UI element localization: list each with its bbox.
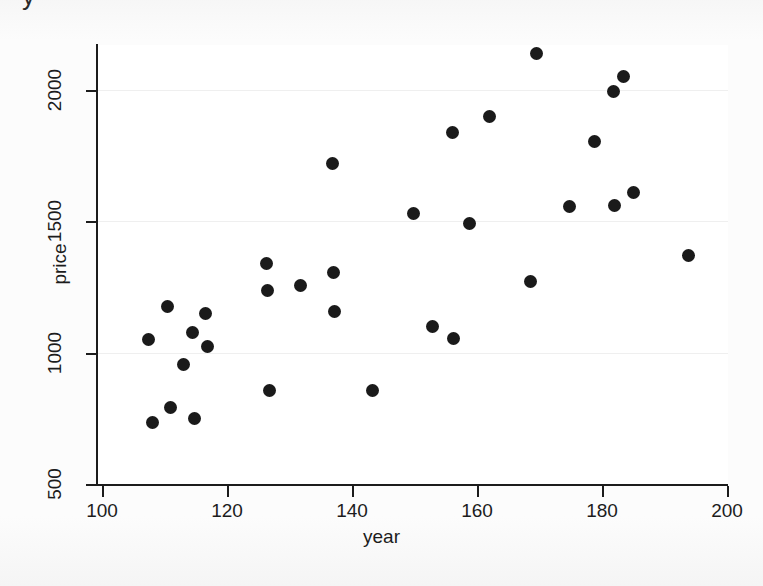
data-point — [607, 85, 620, 98]
x-axis-title: year — [0, 526, 763, 548]
x-tick-200 — [727, 486, 729, 497]
data-point — [260, 257, 273, 270]
data-point — [682, 249, 695, 262]
x-tick-100 — [102, 486, 104, 497]
data-point — [263, 384, 276, 397]
data-point — [201, 340, 214, 353]
x-tick-140 — [352, 486, 354, 497]
y-tick-label-1000: 1000 — [43, 328, 67, 378]
y-tick-label-500: 500 — [43, 459, 67, 509]
x-tick-label-180: 180 — [567, 500, 637, 522]
x-tick-180 — [602, 486, 604, 497]
y-tick-1000 — [86, 353, 97, 355]
data-point — [328, 305, 341, 318]
data-point — [627, 186, 640, 199]
y-tick-500 — [86, 484, 97, 486]
x-tick-label-120: 120 — [192, 500, 262, 522]
x-tick-label-140: 140 — [317, 500, 387, 522]
data-point — [446, 126, 459, 139]
data-point — [142, 333, 155, 346]
data-point — [164, 401, 177, 414]
data-point — [483, 110, 496, 123]
x-tick-160 — [477, 486, 479, 497]
data-point — [366, 384, 379, 397]
y-axis-line — [96, 44, 98, 486]
gridline-y-2000 — [97, 90, 728, 91]
y-tick-2000 — [86, 90, 97, 92]
data-point — [407, 207, 420, 220]
x-tick-label-200: 200 — [692, 500, 762, 522]
data-point — [524, 275, 537, 288]
data-point — [188, 412, 201, 425]
data-point — [146, 416, 159, 429]
plot-area — [97, 45, 728, 485]
y-tick-label-2000: 2000 — [43, 65, 67, 115]
y-axis-title: price — [49, 224, 71, 304]
data-point — [617, 70, 630, 83]
data-point — [199, 307, 212, 320]
x-tick-120 — [227, 486, 229, 497]
data-point — [327, 266, 340, 279]
data-point — [326, 157, 339, 170]
data-point — [426, 320, 439, 333]
data-point — [463, 217, 476, 230]
data-point — [186, 326, 199, 339]
scatter-plot-figure: 500100015002000 100120140160180200 price… — [0, 0, 763, 586]
data-point — [177, 358, 190, 371]
y-tick-1500 — [86, 221, 97, 223]
gridline-y-1000 — [97, 353, 728, 354]
data-point — [563, 200, 576, 213]
gridline-y-1500 — [97, 221, 728, 222]
data-point — [447, 332, 460, 345]
data-point — [608, 199, 621, 212]
data-point — [530, 47, 543, 60]
x-tick-label-100: 100 — [67, 500, 137, 522]
data-point — [588, 135, 601, 148]
x-tick-label-160: 160 — [442, 500, 512, 522]
data-point — [161, 300, 174, 313]
x-axis-line — [96, 484, 728, 486]
data-point — [261, 284, 274, 297]
data-point — [294, 279, 307, 292]
